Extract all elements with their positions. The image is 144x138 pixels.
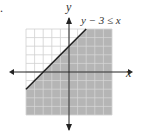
y-axis-label: y xyxy=(65,0,72,14)
problem-marker: . xyxy=(0,1,3,15)
inequality-label: y − 3 ≤ x xyxy=(80,14,121,26)
y-axis-arrow-up xyxy=(66,17,72,24)
inequality-graph: x y y − 3 ≤ x . xyxy=(0,0,144,138)
x-axis-label: x xyxy=(125,66,132,80)
y-axis-arrow-down xyxy=(66,124,72,131)
x-axis-arrow-left xyxy=(9,69,14,75)
